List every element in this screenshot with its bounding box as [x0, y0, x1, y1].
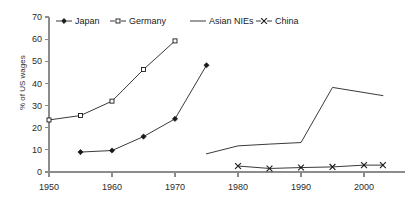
legend-item-germany[interactable]: Germany [110, 16, 167, 26]
x-tick-label: 1960 [102, 182, 122, 192]
marker-filled-diamond [61, 18, 66, 23]
x-tick-label: 1970 [165, 182, 185, 192]
y-tick-label: 30 [32, 101, 42, 111]
legend-label: China [275, 16, 299, 26]
marker-cross [261, 18, 267, 24]
y-axis-ticks: 010203040506070 [32, 12, 49, 177]
y-tick-label: 70 [32, 12, 42, 22]
marker-open-square [79, 114, 83, 118]
legend-item-china[interactable]: China [256, 16, 299, 26]
x-tick-label: 1950 [39, 182, 59, 192]
y-tick-label: 50 [32, 56, 42, 66]
x-tick-label: 2000 [354, 182, 374, 192]
legend-label: Asian NIEs [209, 16, 254, 26]
x-axis-ticks: 195019601970198019902000 [39, 172, 374, 192]
series-japan [78, 63, 209, 155]
marker-filled-diamond [172, 116, 177, 121]
y-axis-title: % of US wages [18, 55, 27, 110]
y-axis-title-group: % of US wages [18, 55, 27, 110]
marker-open-square [47, 118, 51, 122]
series-line [207, 87, 383, 153]
y-tick-label: 20 [32, 123, 42, 133]
series-germany [47, 39, 177, 122]
legend-label: Germany [129, 16, 167, 26]
marker-open-square [142, 67, 146, 71]
legend-item-japan[interactable]: Japan [56, 16, 100, 26]
series-line [49, 41, 175, 120]
marker-filled-diamond [141, 134, 146, 139]
line-chart: % of US wages 010203040506070 1950196019… [0, 0, 412, 198]
marker-open-square [116, 19, 120, 23]
data-series-group [47, 39, 386, 171]
series-asian-nies [207, 87, 383, 153]
chart-container: % of US wages 010203040506070 1950196019… [0, 0, 412, 198]
marker-open-square [173, 39, 177, 43]
y-tick-label: 0 [37, 167, 42, 177]
marker-filled-diamond [204, 63, 209, 68]
y-tick-label: 10 [32, 145, 42, 155]
y-tick-label: 60 [32, 34, 42, 44]
x-tick-label: 1990 [291, 182, 311, 192]
marker-filled-diamond [78, 149, 83, 154]
legend-label: Japan [75, 16, 100, 26]
series-china [235, 162, 386, 171]
marker-open-square [110, 99, 114, 103]
chart-legend: JapanGermanyAsian NIEsChina [56, 16, 299, 26]
legend-item-asian-nies[interactable]: Asian NIEs [190, 16, 254, 26]
marker-filled-diamond [109, 148, 114, 153]
x-tick-label: 1980 [228, 182, 248, 192]
y-tick-label: 40 [32, 79, 42, 89]
